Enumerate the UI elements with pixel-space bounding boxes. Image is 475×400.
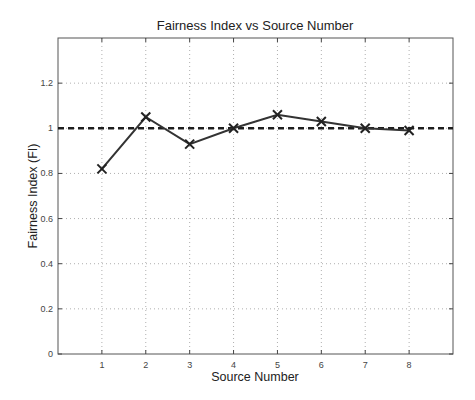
x-tick-labels: 12345678 bbox=[99, 360, 411, 370]
y-tick-label: 0.2 bbox=[40, 304, 53, 314]
y-axis-label: Fairness Index (FI) bbox=[26, 144, 40, 249]
x-axis-label: Source Number bbox=[211, 370, 299, 384]
data-series bbox=[97, 110, 413, 173]
x-tick-label: 4 bbox=[231, 360, 236, 370]
y-tick-label: 1 bbox=[48, 123, 53, 133]
y-tick-labels: 00.20.40.60.811.2 bbox=[40, 78, 53, 359]
y-tick-label: 0.8 bbox=[40, 168, 53, 178]
x-tick-label: 1 bbox=[99, 360, 104, 370]
chart: Fairness Index vs Source Number 00.20.40… bbox=[0, 0, 475, 400]
y-tick-label: 0 bbox=[48, 349, 53, 359]
plot-area bbox=[58, 38, 453, 354]
axis-ticks bbox=[58, 38, 453, 354]
fairness-index-line bbox=[102, 115, 409, 169]
x-tick-label: 5 bbox=[275, 360, 280, 370]
x-tick-label: 3 bbox=[187, 360, 192, 370]
x-marker-icon bbox=[185, 140, 194, 149]
y-tick-label: 1.2 bbox=[40, 78, 53, 88]
x-marker-icon bbox=[141, 113, 150, 122]
gridlines bbox=[58, 38, 453, 354]
x-tick-label: 7 bbox=[363, 360, 368, 370]
x-tick-label: 2 bbox=[143, 360, 148, 370]
x-marker-icon bbox=[97, 164, 106, 173]
y-tick-label: 0.6 bbox=[40, 214, 53, 224]
x-tick-label: 6 bbox=[319, 360, 324, 370]
y-tick-label: 0.4 bbox=[40, 259, 53, 269]
x-tick-label: 8 bbox=[407, 360, 412, 370]
chart-title: Fairness Index vs Source Number bbox=[157, 18, 354, 33]
